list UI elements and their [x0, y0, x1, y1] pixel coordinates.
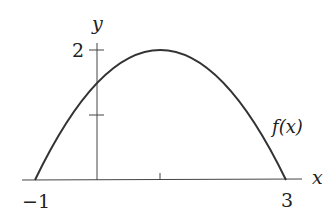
curve-f-of-x — [35, 50, 286, 180]
x-axis-label: x — [312, 166, 323, 188]
curve-label: f(x) — [270, 116, 303, 137]
x-tick-label-neg1: −1 — [22, 190, 50, 212]
x-tick-label-3: 3 — [281, 189, 293, 211]
y-tick-label-2: 2 — [72, 39, 84, 61]
function-plot: y 2 −1 3 x f(x) — [0, 0, 335, 224]
x-axis — [22, 179, 302, 180]
y-axis-label: y — [91, 12, 103, 34]
